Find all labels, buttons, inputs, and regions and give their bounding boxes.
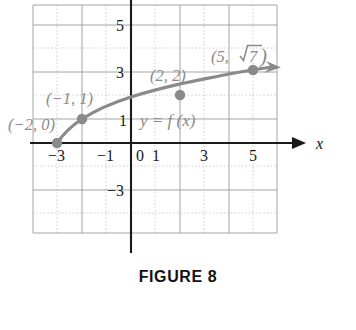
graph-plot: (−2, 0) (−1, 1) (2, 2) (5, 7 ) y = f (x)… xyxy=(0,0,356,300)
x-tick-label-3: 3 xyxy=(200,147,208,164)
label-point-neg1-1: (−1, 1) xyxy=(46,89,93,108)
y-tick-label-5: 5 xyxy=(116,17,124,34)
point-5-sqrt7 xyxy=(248,65,258,75)
point-labels: (−2, 0) (−1, 1) (2, 2) (5, 7 ) xyxy=(8,44,267,134)
x-tick-label-0: 0 xyxy=(136,147,144,164)
x-axis-arrowhead xyxy=(292,137,306,149)
y-tick-label-3: 3 xyxy=(116,64,124,81)
x-tick-labels: −3 −1 0 1 3 5 xyxy=(48,147,257,164)
label-point-2-2: (2, 2) xyxy=(150,66,186,85)
y-tick-labels: 5 3 1 −3 xyxy=(107,17,127,199)
x-tick-label-neg3: −3 xyxy=(48,147,65,164)
label-point-neg2-0: (−2, 0) xyxy=(8,115,55,134)
label-point-5-sqrt7-prefix: (5, xyxy=(211,47,229,66)
x-tick-label-1: 1 xyxy=(152,147,160,164)
figure-caption: FIGURE 8 xyxy=(0,268,356,286)
curve-equation-label: y = f (x) xyxy=(138,111,196,130)
x-axis-label: x xyxy=(315,135,323,152)
label-point-5-sqrt7-radicand: 7 xyxy=(249,47,258,66)
y-tick-label-neg3: −3 xyxy=(107,182,124,199)
figure-container: (−2, 0) (−1, 1) (2, 2) (5, 7 ) y = f (x)… xyxy=(0,0,356,330)
y-tick-label-1: 1 xyxy=(119,112,127,129)
x-tick-label-neg1: −1 xyxy=(97,147,114,164)
x-tick-label-5: 5 xyxy=(249,147,257,164)
point-2-2 xyxy=(175,90,185,100)
point-neg1-1 xyxy=(77,114,87,124)
label-point-5-sqrt7-suffix: ) xyxy=(259,44,267,68)
